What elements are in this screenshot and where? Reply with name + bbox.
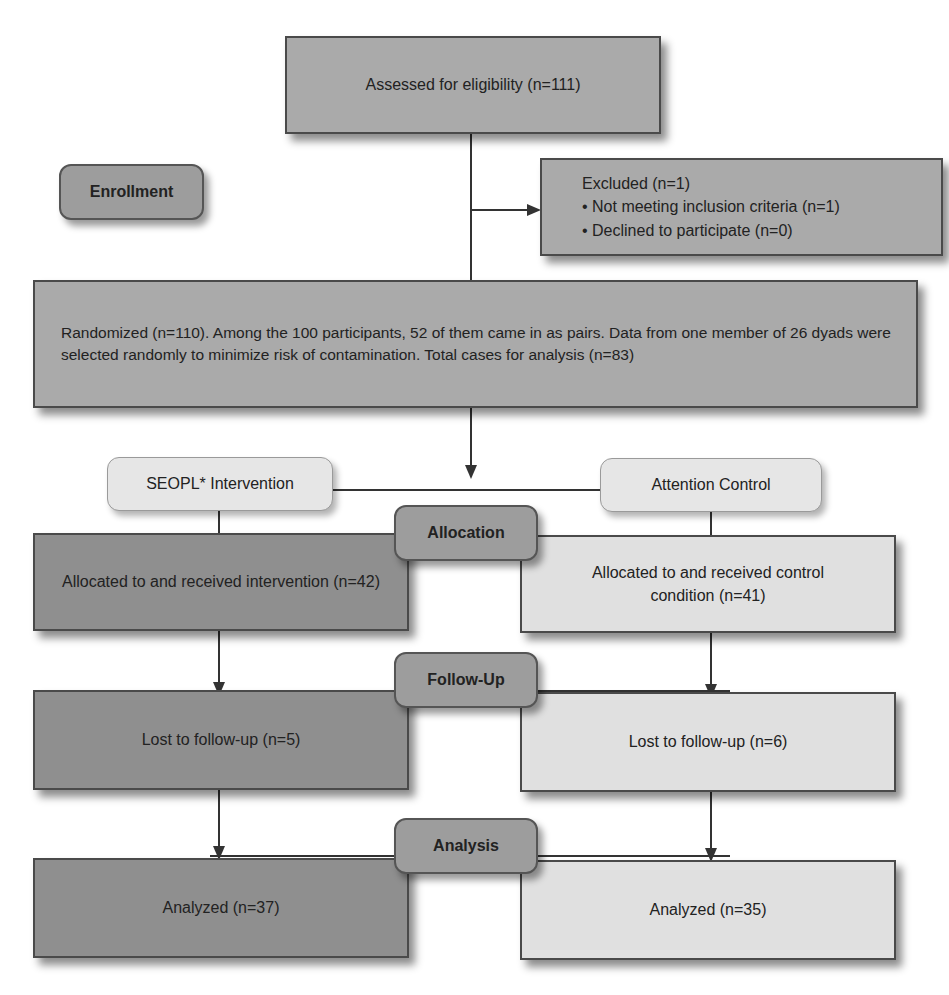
intervention-lost-box: Lost to follow-up (n=5) bbox=[33, 690, 409, 790]
connector-arms-horizontal bbox=[330, 489, 600, 491]
intervention-analyzed-text: Analyzed (n=37) bbox=[163, 896, 280, 919]
connector-control-lost-down bbox=[710, 790, 712, 856]
stage-enrollment: Enrollment bbox=[59, 164, 204, 220]
excluded-item: Not meeting inclusion criteria (n=1) bbox=[582, 195, 840, 218]
connector-intervention-alloc-down bbox=[218, 630, 220, 690]
randomized-text: Randomized (n=110). Among the 100 partic… bbox=[61, 322, 902, 367]
control-allocated-text: Allocated to and received control condit… bbox=[558, 561, 858, 607]
randomized-box: Randomized (n=110). Among the 100 partic… bbox=[33, 280, 918, 408]
intervention-allocated-text: Allocated to and received intervention (… bbox=[62, 570, 380, 593]
control-analyzed-text: Analyzed (n=35) bbox=[650, 898, 767, 921]
assessed-box: Assessed for eligibility (n=111) bbox=[285, 36, 661, 134]
stage-allocation: Allocation bbox=[394, 505, 538, 561]
connector-control-alloc-down bbox=[710, 630, 712, 692]
intervention-lost-text: Lost to follow-up (n=5) bbox=[142, 728, 301, 751]
connector-to-excluded bbox=[471, 209, 531, 211]
control-lost-box: Lost to follow-up (n=6) bbox=[520, 692, 896, 792]
stage-analysis: Analysis bbox=[394, 818, 538, 874]
intervention-analyzed-box: Analyzed (n=37) bbox=[33, 858, 409, 958]
excluded-title: Excluded (n=1) bbox=[582, 172, 840, 195]
arm-control-label: Attention Control bbox=[600, 458, 822, 512]
excluded-box: Excluded (n=1) Not meeting inclusion cri… bbox=[540, 158, 943, 256]
stage-allocation-label: Allocation bbox=[427, 524, 504, 542]
arm-intervention-label-text: SEOPL* Intervention bbox=[146, 475, 294, 493]
arm-control-label-text: Attention Control bbox=[651, 476, 770, 494]
excluded-item: Declined to participate (n=0) bbox=[582, 219, 840, 242]
intervention-allocated-box: Allocated to and received intervention (… bbox=[33, 533, 409, 631]
stage-follow-up: Follow-Up bbox=[394, 652, 538, 708]
stage-analysis-label: Analysis bbox=[433, 837, 499, 855]
arrow-down-icon bbox=[465, 465, 477, 479]
assessed-text: Assessed for eligibility (n=111) bbox=[365, 73, 580, 96]
control-allocated-box: Allocated to and received control condit… bbox=[520, 535, 896, 633]
arrow-right-icon bbox=[527, 204, 541, 216]
control-lost-text: Lost to follow-up (n=6) bbox=[629, 730, 788, 753]
excluded-list: Not meeting inclusion criteria (n=1) Dec… bbox=[582, 195, 840, 241]
stage-enrollment-label: Enrollment bbox=[90, 183, 174, 201]
connector-intervention-lost-down bbox=[218, 788, 220, 854]
connector-assessed-to-randomized bbox=[470, 130, 472, 280]
connector-randomized-down bbox=[470, 406, 472, 470]
arm-intervention-label: SEOPL* Intervention bbox=[107, 457, 333, 511]
stage-follow-up-label: Follow-Up bbox=[427, 671, 504, 689]
control-analyzed-box: Analyzed (n=35) bbox=[520, 860, 896, 960]
